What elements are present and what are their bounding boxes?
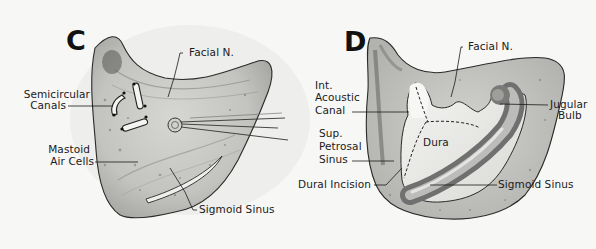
label-d-iac-3: Canal — [315, 105, 345, 116]
panel-d-letter: D — [344, 28, 366, 55]
label-d-iac-2: Acoustic — [315, 92, 360, 103]
label-d-sigmoid-sinus: Sigmoid Sinus — [498, 179, 573, 190]
illustration — [0, 0, 596, 249]
label-c-mastoid-1: Mastoid — [20, 144, 90, 155]
label-c-mastoid-2: Air Cells — [20, 156, 94, 167]
label-d-dural-incision: Dural Incision — [298, 179, 371, 190]
label-d-sps-1: Sup. — [319, 128, 343, 139]
panel-d-art — [366, 38, 564, 219]
label-d-facial-nerve: Facial N. — [468, 41, 513, 52]
figure: C D Facial N. Semicircular Canals Mastoi… — [0, 0, 596, 249]
label-d-sps-2: Petrosal — [319, 141, 362, 152]
label-d-sps-3: Sinus — [319, 154, 348, 165]
label-d-jugular-2: Bulb — [558, 110, 582, 121]
label-d-dura: Dura — [423, 137, 449, 148]
panel-c-letter: C — [66, 27, 86, 54]
label-d-iac-1: Int. — [315, 80, 333, 91]
label-c-facial-nerve: Facial N. — [189, 47, 234, 58]
label-c-sigmoid-sinus: Sigmoid Sinus — [199, 204, 274, 215]
label-c-semicircular-2: Canals — [20, 100, 66, 111]
